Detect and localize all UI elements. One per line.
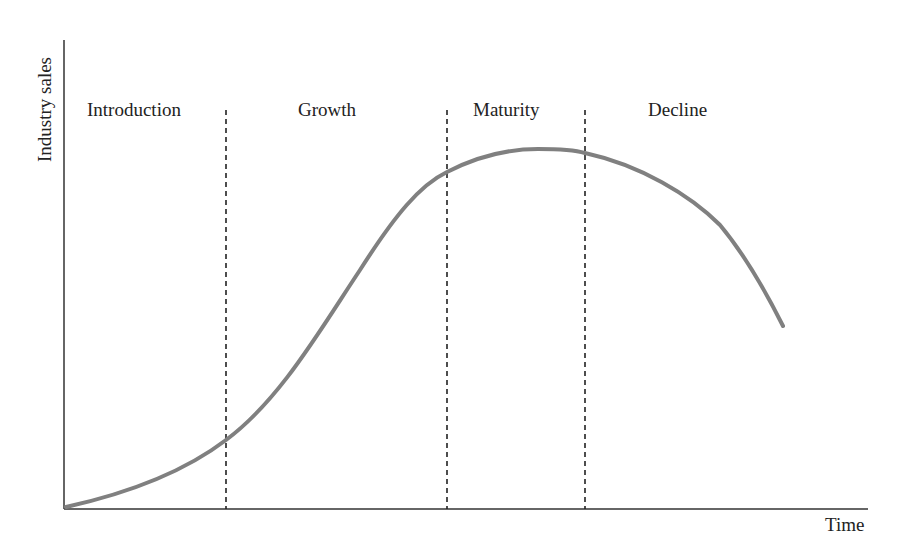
stage-label-introduction: Introduction (87, 99, 181, 120)
stage-label-decline: Decline (648, 99, 707, 120)
x-axis-label: Time (825, 514, 864, 535)
stage-label-growth: Growth (298, 99, 357, 120)
y-axis-label: Industry sales (34, 57, 55, 162)
product-life-cycle-chart: Industry sales Time Introduction Growth … (0, 0, 917, 556)
sales-curve (66, 149, 783, 507)
stage-label-maturity: Maturity (473, 99, 540, 120)
